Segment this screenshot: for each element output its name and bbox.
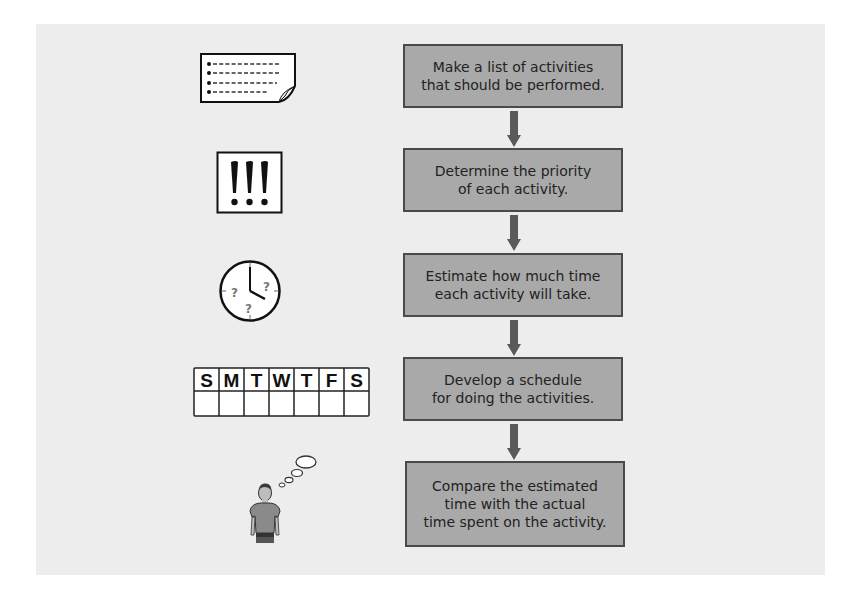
exclamation-marks-icon <box>216 151 283 214</box>
step-box-compare-time: Compare the estimated time with the actu… <box>405 461 625 547</box>
weekly-calendar-icon: S M T W T F S <box>193 367 370 421</box>
svg-text:?: ? <box>231 286 238 300</box>
step-label: Compare the estimated time with the actu… <box>423 477 606 531</box>
step-box-make-list: Make a list of activities that should be… <box>403 44 623 108</box>
list-note-icon <box>199 52 298 104</box>
down-arrow-icon <box>507 215 521 251</box>
calendar-day: S <box>200 370 213 391</box>
calendar-day: S <box>350 370 363 391</box>
down-arrow-icon <box>507 320 521 356</box>
step-box-estimate-time: Estimate how much time each activity wil… <box>403 253 623 317</box>
step-box-develop-schedule: Develop a schedule for doing the activit… <box>403 357 623 421</box>
step-label: Develop a schedule for doing the activit… <box>432 371 594 407</box>
svg-text:?: ? <box>263 280 270 294</box>
step-label: Estimate how much time each activity wil… <box>426 267 601 303</box>
calendar-day: T <box>251 370 263 391</box>
step-label: Make a list of activities that should be… <box>421 58 605 94</box>
calendar-day: W <box>273 370 291 391</box>
clock-question-icon: ? ? ? <box>218 259 282 323</box>
step-box-determine-priority: Determine the priority of each activity. <box>403 148 623 212</box>
step-label: Determine the priority of each activity. <box>435 162 591 198</box>
down-arrow-icon <box>507 111 521 147</box>
thinking-person-icon <box>248 455 318 543</box>
calendar-day: M <box>224 370 240 391</box>
svg-text:?: ? <box>245 302 252 316</box>
calendar-day: F <box>326 370 338 391</box>
down-arrow-icon <box>507 424 521 460</box>
calendar-day: T <box>301 370 313 391</box>
diagram-canvas: Make a list of activities that should be… <box>0 0 857 602</box>
